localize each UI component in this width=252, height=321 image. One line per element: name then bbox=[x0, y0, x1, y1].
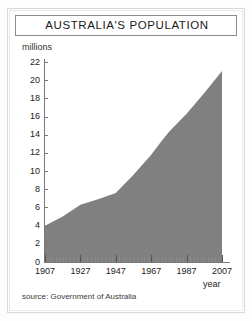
y-tick-label: 18 bbox=[20, 94, 40, 103]
x-tick-minor bbox=[98, 257, 99, 262]
x-tick-minor bbox=[165, 257, 166, 262]
y-tick-label: 14 bbox=[20, 130, 40, 139]
x-tick-minor bbox=[123, 257, 124, 262]
x-tick-minor bbox=[84, 257, 85, 262]
y-tick-label: 2 bbox=[20, 239, 40, 248]
x-tick-label: 1967 bbox=[134, 266, 168, 276]
plot-area bbox=[45, 62, 222, 262]
x-tick-minor bbox=[73, 257, 74, 262]
x-tick-minor bbox=[77, 257, 78, 262]
x-tick-minor bbox=[63, 257, 64, 262]
x-tick-minor bbox=[144, 257, 145, 262]
x-axis-line bbox=[44, 262, 230, 263]
x-tick-major bbox=[116, 255, 117, 262]
x-tick-minor bbox=[56, 257, 57, 262]
x-tick-label: 1987 bbox=[170, 266, 204, 276]
x-tick-minor bbox=[155, 257, 156, 262]
x-tick-minor bbox=[201, 257, 202, 262]
x-tick-major bbox=[80, 255, 81, 262]
x-tick-minor bbox=[208, 257, 209, 262]
x-axis-label: year bbox=[203, 279, 221, 289]
x-tick-minor bbox=[112, 257, 113, 262]
x-tick-minor bbox=[70, 257, 71, 262]
x-tick-major bbox=[187, 255, 188, 262]
y-tick-mark bbox=[45, 135, 48, 136]
x-tick-major bbox=[222, 255, 223, 262]
x-tick-label: 1927 bbox=[63, 266, 97, 276]
x-tick-minor bbox=[158, 257, 159, 262]
y-tick-label: 6 bbox=[20, 203, 40, 212]
y-tick-label: 4 bbox=[20, 221, 40, 230]
y-tick-label: 20 bbox=[20, 76, 40, 85]
y-tick-mark bbox=[45, 80, 48, 81]
x-tick-label: 1907 bbox=[28, 266, 62, 276]
x-tick-minor bbox=[194, 257, 195, 262]
x-tick-minor bbox=[176, 257, 177, 262]
x-tick-minor bbox=[91, 257, 92, 262]
y-tick-label: 10 bbox=[20, 167, 40, 176]
x-tick-minor bbox=[211, 257, 212, 262]
y-tick-mark bbox=[45, 262, 48, 263]
x-tick-minor bbox=[141, 257, 142, 262]
y-tick-mark bbox=[45, 226, 48, 227]
y-tick-mark bbox=[45, 117, 48, 118]
chart-figure: AUSTRALIA'S POPULATION millions 02468101… bbox=[0, 0, 252, 321]
y-tick-mark bbox=[45, 153, 48, 154]
x-tick-minor bbox=[218, 257, 219, 262]
x-tick-minor bbox=[137, 257, 138, 262]
x-tick-major bbox=[45, 255, 46, 262]
x-tick-minor bbox=[105, 257, 106, 262]
y-tick-mark bbox=[45, 244, 48, 245]
x-tick-label: 1947 bbox=[99, 266, 133, 276]
x-tick-minor bbox=[190, 257, 191, 262]
x-tick-minor bbox=[87, 257, 88, 262]
x-tick-minor bbox=[169, 257, 170, 262]
y-tick-label: 12 bbox=[20, 148, 40, 157]
x-tick-minor bbox=[126, 257, 127, 262]
x-tick-minor bbox=[162, 257, 163, 262]
x-tick-minor bbox=[215, 257, 216, 262]
x-tick-minor bbox=[49, 257, 50, 262]
x-tick-minor bbox=[102, 257, 103, 262]
y-tick-mark bbox=[45, 171, 48, 172]
x-tick-minor bbox=[183, 257, 184, 262]
y-tick-mark bbox=[45, 207, 48, 208]
y-tick-label: 8 bbox=[20, 185, 40, 194]
x-tick-major bbox=[151, 255, 152, 262]
x-tick-minor bbox=[172, 257, 173, 262]
y-tick-mark bbox=[45, 62, 48, 63]
x-tick-minor bbox=[52, 257, 53, 262]
x-tick-minor bbox=[109, 257, 110, 262]
y-tick-mark bbox=[45, 98, 48, 99]
source-note: source: Government of Australia bbox=[22, 292, 136, 301]
x-tick-minor bbox=[130, 257, 131, 262]
y-axis-units-label: millions bbox=[22, 42, 52, 52]
y-tick-label: 22 bbox=[20, 58, 40, 67]
y-tick-mark bbox=[45, 189, 48, 190]
x-tick-minor bbox=[197, 257, 198, 262]
x-tick-minor bbox=[204, 257, 205, 262]
population-area-series bbox=[45, 62, 222, 262]
x-tick-label: 2007 bbox=[205, 266, 239, 276]
page-title: AUSTRALIA'S POPULATION bbox=[16, 16, 238, 35]
x-tick-minor bbox=[119, 257, 120, 262]
x-tick-minor bbox=[148, 257, 149, 262]
chart-title-box: AUSTRALIA'S POPULATION bbox=[15, 15, 237, 36]
y-tick-label: 16 bbox=[20, 112, 40, 121]
x-tick-minor bbox=[59, 257, 60, 262]
x-tick-minor bbox=[95, 257, 96, 262]
x-tick-minor bbox=[180, 257, 181, 262]
x-tick-minor bbox=[66, 257, 67, 262]
x-tick-minor bbox=[134, 257, 135, 262]
